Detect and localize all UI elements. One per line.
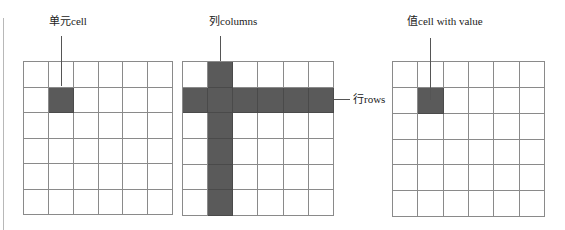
grid-cell	[208, 139, 233, 165]
grid-cell	[520, 191, 545, 217]
grid-cell	[284, 113, 309, 139]
grid-cell	[284, 88, 309, 114]
grid-cell	[469, 165, 494, 191]
grid-cell	[24, 62, 49, 88]
grid-cell	[183, 88, 208, 114]
grid-cell	[469, 114, 494, 140]
grid-cell	[233, 113, 258, 139]
cell-with-value-label: 值cell with value	[407, 15, 483, 27]
grid-cell	[233, 165, 258, 191]
grid-cell	[233, 62, 258, 88]
grid-cell	[520, 140, 545, 166]
grid-cell	[258, 190, 283, 216]
grid-cell	[469, 140, 494, 166]
grid-cell	[418, 191, 443, 217]
grid-cell	[258, 88, 283, 114]
grid-cell	[99, 190, 124, 216]
grid-cell	[233, 190, 258, 216]
grid-cell	[520, 165, 545, 191]
grid-cell	[123, 62, 148, 88]
grid-cell	[494, 140, 519, 166]
cell-with-value-leader-line	[430, 38, 431, 100]
grid-cell	[74, 164, 99, 190]
grid-cell	[393, 191, 418, 217]
grid-cell	[258, 139, 283, 165]
grid-cell	[24, 88, 49, 114]
grid-cell	[309, 190, 334, 216]
grid-cell	[469, 88, 494, 114]
grid-cell	[24, 139, 49, 165]
grid-cell	[99, 113, 124, 139]
grid-cell	[49, 88, 74, 114]
grid-cell	[494, 62, 519, 88]
grid-cell	[444, 114, 469, 140]
grid-cell	[444, 88, 469, 114]
grid-cell	[24, 164, 49, 190]
grid-cell	[74, 139, 99, 165]
grid-cell	[309, 88, 334, 114]
grid-cell	[309, 165, 334, 191]
grid-cell	[520, 114, 545, 140]
margin-rule	[3, 18, 4, 230]
grid-cell	[123, 88, 148, 114]
grid-cell	[494, 165, 519, 191]
cell-with-value-grid	[392, 61, 545, 217]
grid-cell	[148, 113, 173, 139]
cell-leader-line	[61, 36, 62, 86]
grid-cell	[208, 190, 233, 216]
grid-cell	[74, 190, 99, 216]
grid-cell	[74, 113, 99, 139]
grid-cell	[258, 165, 283, 191]
cell-label: 单元cell	[49, 15, 87, 27]
grid-cell	[148, 88, 173, 114]
grid-cell	[74, 62, 99, 88]
grid-cell	[183, 139, 208, 165]
grid-cell	[148, 139, 173, 165]
grid-cell	[183, 190, 208, 216]
cell-grid	[23, 61, 173, 215]
grid-cell	[183, 113, 208, 139]
grid-cell	[208, 113, 233, 139]
grid-cell	[494, 88, 519, 114]
grid-cell	[123, 190, 148, 216]
grid-cell	[49, 139, 74, 165]
grid-cell	[183, 62, 208, 88]
grid-cell	[208, 165, 233, 191]
grid-cell	[494, 114, 519, 140]
grid-cell	[258, 113, 283, 139]
grid-cell	[24, 113, 49, 139]
grid-cell	[148, 190, 173, 216]
grid-cell	[49, 190, 74, 216]
grid-cell	[99, 164, 124, 190]
grid-cell	[393, 62, 418, 88]
columns-leader-line	[220, 36, 221, 61]
grid-cell	[24, 190, 49, 216]
grid-cell	[284, 190, 309, 216]
grid-cell	[444, 140, 469, 166]
grid-cell	[444, 62, 469, 88]
grid-cell	[418, 165, 443, 191]
rows-columns-grid	[182, 61, 334, 216]
grid-cell	[208, 62, 233, 88]
grid-cell	[123, 139, 148, 165]
grid-cell	[418, 114, 443, 140]
grid-cell	[520, 88, 545, 114]
grid-cell	[444, 191, 469, 217]
grid-cell	[99, 88, 124, 114]
rows-label: 行rows	[353, 93, 385, 105]
grid-cell	[49, 113, 74, 139]
grid-cell	[309, 139, 334, 165]
grid-cell	[309, 113, 334, 139]
grid-cell	[393, 140, 418, 166]
grid-cell	[284, 139, 309, 165]
grid-cell	[99, 139, 124, 165]
grid-cell	[74, 88, 99, 114]
grid-cell	[393, 88, 418, 114]
grid-cell	[233, 88, 258, 114]
grid-cell	[148, 62, 173, 88]
grid-cell	[444, 165, 469, 191]
grid-cell	[148, 164, 173, 190]
grid-cell	[99, 62, 124, 88]
columns-label: 列columns	[209, 15, 257, 27]
grid-cell	[123, 113, 148, 139]
